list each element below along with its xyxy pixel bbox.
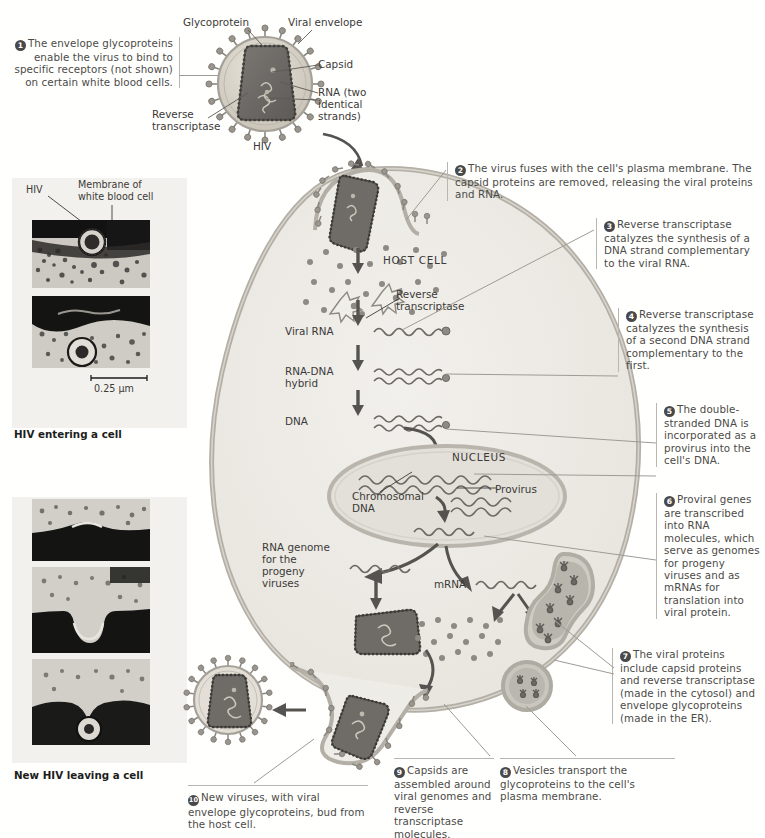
chromosomal-dna-leader — [378, 470, 418, 494]
step-8-leader-line — [520, 700, 580, 760]
step-2-leader-line — [400, 166, 450, 226]
step-6-number: 6 — [664, 496, 675, 507]
step-8-text: Vesicles transport the glycoproteins to … — [500, 764, 635, 802]
step-4-callout: 4Reverse transcriptase catalyzes the syn… — [618, 308, 756, 372]
step-3-text: Reverse transcriptase catalyzes the synt… — [604, 218, 750, 269]
step-9-text: Capsids are assembled around viral genom… — [394, 764, 491, 838]
scale-bar — [90, 374, 148, 382]
label-rna-genome-line1: RNA genome — [262, 541, 330, 553]
step-6-leader-line — [470, 460, 660, 580]
step-10-callout: 10New viruses, with viral envelope glyco… — [188, 785, 368, 831]
micrograph-bottom-caption: New HIV leaving a cell — [14, 769, 143, 781]
step-4-number: 4 — [626, 311, 637, 322]
step-8-number: 8 — [500, 767, 511, 778]
rna-dna-hybrid-strand — [372, 365, 452, 387]
progeny-rna-genome-strand — [348, 560, 418, 576]
step-3-leader-line — [398, 226, 598, 336]
label-rna-genome-line3: progeny — [262, 565, 305, 577]
arrow-uncoating — [350, 248, 366, 274]
label-rna-genome-line2: for the — [262, 553, 297, 565]
em-image-hiv-entering-2 — [32, 296, 150, 368]
step-4-text: Reverse transcriptase catalyzes the synt… — [626, 308, 754, 371]
arrow-hybrid-to-dna — [350, 390, 366, 416]
em-image-hiv-leaving-3 — [32, 659, 150, 745]
step-10-text: New viruses, with viral envelope glycopr… — [188, 791, 365, 830]
step-6-text: Proviral genes are transcribed into RNA … — [664, 493, 760, 618]
em-image-hiv-leaving-2 — [32, 567, 150, 653]
step-2-text: The virus fuses with the cell's plasma m… — [455, 162, 753, 200]
label-rna-dna-hybrid-line2: hybrid — [285, 377, 318, 389]
label-chromosomal-dna-line2: DNA — [352, 502, 375, 514]
step-9-leader-line — [440, 700, 495, 760]
step-7-callout: 7The viral proteins include capsid prote… — [612, 648, 760, 724]
step-6-callout: 6Proviral genes are transcribed into RNA… — [656, 493, 764, 619]
micrograph-top-caption: HIV entering a cell — [14, 428, 122, 440]
step-10-leader-line — [250, 735, 320, 787]
step-1-number: 1 — [15, 40, 26, 51]
arrow-rna-to-hybrid — [350, 345, 366, 371]
label-rna-dna-hybrid-line1: RNA-DNA — [285, 365, 334, 377]
step-5-text: The double-stranded DNA is incorporated … — [664, 403, 756, 466]
top-leader-lines — [140, 10, 390, 150]
micrograph-top-panel: HIV Membrane of white blood cell — [12, 178, 187, 428]
step-7-text: The viral proteins include capsid protei… — [620, 648, 755, 724]
step-5-callout: 5The double-stranded DNA is incorporated… — [656, 403, 758, 467]
step-8-callout: 8Vesicles transport the glycoproteins to… — [500, 758, 675, 803]
step-3-number: 3 — [604, 221, 615, 232]
label-mrna: mRNA — [434, 578, 466, 590]
step-2-callout: 2The virus fuses with the cell's plasma … — [447, 162, 755, 201]
step-4-leader-line — [442, 330, 622, 380]
step-7-leader-lines — [548, 600, 618, 710]
step-10-number: 10 — [188, 795, 199, 806]
label-viral-rna: Viral RNA — [285, 325, 334, 337]
em-image-hiv-entering-1 — [32, 220, 150, 288]
label-rna-genome-line4: viruses — [262, 577, 299, 589]
arrow-to-viral-rna — [350, 300, 366, 326]
step-3-callout: 3Reverse transcriptase catalyzes the syn… — [596, 218, 756, 269]
label-dna: DNA — [285, 415, 308, 427]
em-image-hiv-leaving-1 — [32, 499, 150, 561]
step-7-number: 7 — [620, 651, 631, 662]
micrograph-bottom-panel — [12, 497, 187, 763]
step-9-callout: 9Capsids are assembled around viral geno… — [394, 758, 494, 838]
scale-bar-label: 0.25 µm — [94, 383, 134, 395]
step-2-number: 2 — [455, 165, 466, 176]
step-9-number: 9 — [394, 767, 405, 778]
step-5-number: 5 — [664, 406, 675, 417]
